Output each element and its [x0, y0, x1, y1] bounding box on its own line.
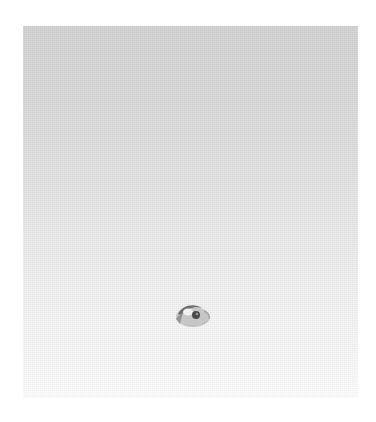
gradient-panel: [23, 26, 358, 398]
eye-icon[interactable]: [170, 301, 214, 331]
